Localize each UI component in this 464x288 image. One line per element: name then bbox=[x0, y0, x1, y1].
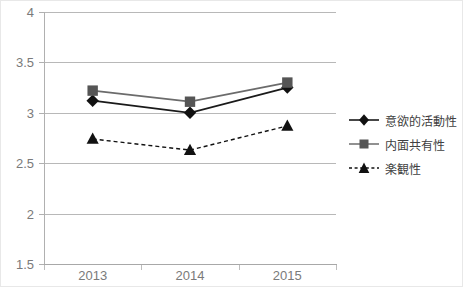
legend-marker-diamond-icon bbox=[348, 110, 380, 130]
legend-item-2[interactable]: 楽観性 bbox=[348, 156, 460, 180]
y-tick-label: 1.5 bbox=[0, 257, 34, 272]
gridline bbox=[44, 12, 336, 13]
y-tick-label: 3.5 bbox=[0, 55, 34, 70]
line-chart: 43.532.521.5 201320142015 意欲的活動性 内面共有性 bbox=[0, 0, 464, 288]
x-axis-line bbox=[44, 264, 337, 265]
series-line bbox=[93, 83, 288, 102]
series-line bbox=[93, 88, 288, 113]
x-tick-mark bbox=[141, 265, 142, 270]
legend-item-0[interactable]: 意欲的活動性 bbox=[348, 108, 460, 132]
series-3 bbox=[87, 120, 294, 155]
data-point-square bbox=[185, 97, 195, 107]
data-point-triangle bbox=[87, 133, 99, 144]
x-tick-mark bbox=[44, 265, 45, 270]
y-tick-label: 4 bbox=[0, 5, 34, 20]
data-point-diamond bbox=[86, 95, 98, 107]
data-point-square bbox=[282, 77, 292, 87]
legend-marker-square-icon bbox=[348, 134, 380, 154]
chart-legend: 意欲的活動性 内面共有性 楽観性 bbox=[348, 108, 460, 180]
gridline bbox=[44, 214, 336, 215]
data-point-square bbox=[87, 85, 97, 95]
legend-label-2: 楽観性 bbox=[385, 160, 421, 177]
gridline bbox=[44, 62, 336, 63]
x-tick-label: 2015 bbox=[247, 268, 327, 283]
gridline bbox=[44, 163, 336, 164]
x-tick-mark bbox=[239, 265, 240, 270]
data-point-diamond bbox=[281, 81, 293, 93]
series-2 bbox=[87, 77, 292, 107]
series-line bbox=[93, 126, 288, 150]
y-tick-label: 2.5 bbox=[0, 156, 34, 171]
legend-label-1: 内面共有性 bbox=[385, 136, 445, 153]
x-tick-mark bbox=[336, 265, 337, 270]
y-axis-line bbox=[44, 12, 45, 265]
legend-marker-triangle-icon bbox=[348, 158, 380, 178]
gridline bbox=[44, 113, 336, 114]
x-tick-label: 2014 bbox=[150, 268, 230, 283]
legend-label-0: 意欲的活動性 bbox=[385, 112, 457, 129]
data-point-triangle bbox=[184, 144, 196, 155]
x-tick-label: 2013 bbox=[53, 268, 133, 283]
y-tick-label: 3 bbox=[0, 105, 34, 120]
legend-item-1[interactable]: 内面共有性 bbox=[348, 132, 460, 156]
y-tick-label: 2 bbox=[0, 206, 34, 221]
data-point-triangle bbox=[281, 120, 293, 131]
